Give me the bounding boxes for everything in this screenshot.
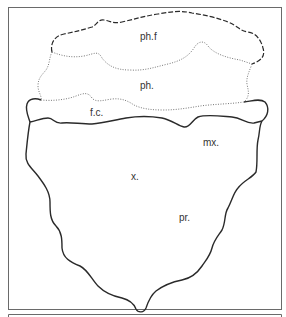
label-mx: mx. (203, 137, 219, 148)
fc-lower-boundary (30, 115, 262, 127)
label-pr: pr. (179, 212, 190, 223)
figure-frame (9, 8, 282, 310)
label-ph: ph. (140, 80, 154, 91)
ph-lower-boundary (41, 94, 244, 110)
fc-outline (26, 99, 267, 122)
ph-upper-boundary (52, 42, 252, 70)
ph-f-outline (52, 11, 264, 64)
label-ph-f: ph.f (140, 31, 157, 42)
main-body-outline (26, 121, 262, 312)
ph-left-boundary (38, 52, 52, 100)
label-x: x. (131, 171, 139, 182)
ph-right-boundary (244, 64, 252, 102)
label-fc: f.c. (90, 107, 103, 118)
diagram-figure: ph.f ph. f.c. mx. x. pr. (0, 0, 286, 317)
